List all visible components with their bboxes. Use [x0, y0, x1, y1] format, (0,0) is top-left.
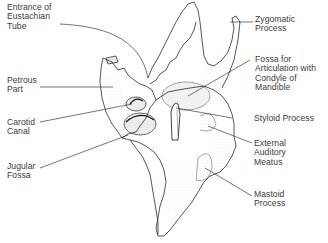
label-zygomatic-process: Zygomatic Process [255, 15, 295, 34]
mandibular-fossa [162, 82, 210, 110]
label-mastoid-process: Mastoid Process [254, 190, 285, 209]
eustachian-entrance [106, 56, 118, 64]
label-fossa-for-articulation: Fossa for Articulation with Condyle of M… [255, 55, 316, 93]
leader-mastoid [205, 168, 252, 196]
label-jugular-fossa: Jugular Fossa [7, 162, 36, 181]
label-petrous-part: Petrous Part [7, 76, 37, 95]
label-carotid-canal: Carotid Canal [7, 118, 35, 137]
bone-shading [104, 54, 234, 216]
label-entrance-of-eustachian-tube: Entrance of Eustachian Tube [7, 3, 52, 31]
jugular-fossa [124, 113, 156, 135]
leader-jugular [40, 135, 128, 168]
leader-eustachian [60, 24, 148, 78]
temporal-bone-diagram: Entrance of Eustachian Tube Petrous Part… [0, 0, 328, 243]
carotid-canal [126, 97, 146, 111]
leader-carotid [40, 104, 132, 122]
label-styloid-process: Styloid Process [254, 114, 314, 123]
label-external-auditory-meatus: External Auditory Meatus [254, 139, 286, 167]
leader-lines [40, 22, 253, 196]
